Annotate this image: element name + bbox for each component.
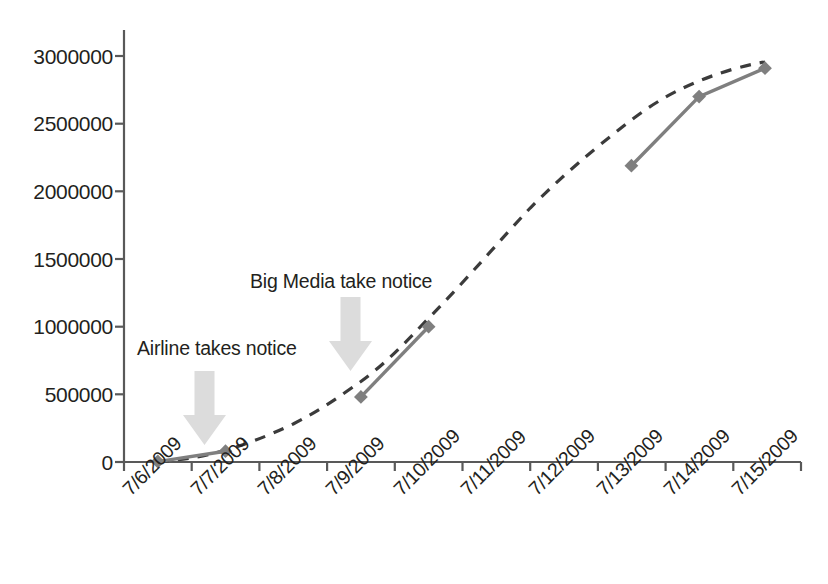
y-tick-label: 1500000 xyxy=(33,248,113,272)
y-tick-label: 2000000 xyxy=(33,180,113,204)
y-axis-ticks xyxy=(115,56,124,462)
airline-annotation-arrow-icon xyxy=(183,371,226,445)
big-media-annotation-label: Big Media take notice xyxy=(250,270,432,293)
y-tick-label: 500000 xyxy=(45,383,113,407)
y-tick-label: 1000000 xyxy=(33,315,113,339)
data-line-segment-mid xyxy=(361,327,429,397)
big-media-annotation-arrow-icon xyxy=(329,297,372,371)
chart-container: 0 500000 1000000 1500000 2000000 2500000… xyxy=(0,0,828,584)
data-point-markers xyxy=(151,61,772,468)
airline-annotation-label: Airline takes notice xyxy=(137,337,297,360)
y-tick-label: 2500000 xyxy=(33,112,113,136)
data-line-segment-late xyxy=(631,68,765,166)
y-tick-label: 3000000 xyxy=(33,45,113,69)
y-tick-label: 0 xyxy=(102,451,113,475)
